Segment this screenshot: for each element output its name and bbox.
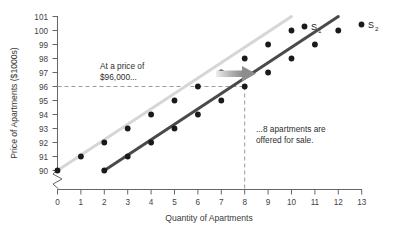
data-point	[148, 112, 154, 118]
series-s2-label-marker	[359, 22, 365, 28]
data-point	[172, 126, 178, 132]
data-point	[312, 42, 318, 48]
x-tick-label: 2	[102, 198, 107, 207]
y-tick-label: 90	[39, 167, 49, 176]
data-point	[148, 140, 154, 146]
data-point	[242, 56, 248, 62]
data-point	[101, 168, 107, 174]
x-axis-title: Quantity of Apartments	[165, 213, 252, 223]
x-tick-label: 10	[287, 198, 297, 207]
data-point	[218, 98, 224, 104]
data-point	[78, 154, 84, 160]
price-callout-line-2: $96,000...	[100, 72, 137, 82]
x-tick-label: 7	[219, 198, 224, 207]
chart-background	[0, 0, 406, 229]
data-point	[265, 42, 271, 48]
data-point	[289, 56, 295, 62]
x-tick-label: 11	[311, 198, 320, 207]
x-tick-label: 0	[55, 198, 60, 207]
x-tick-label: 6	[196, 198, 201, 207]
y-tick-label: 95	[39, 97, 49, 106]
chart-canvas: 101 100 99 98 97 96 95 94 93 92 91 90	[0, 0, 406, 229]
data-point	[335, 28, 341, 34]
quantity-callout-line-1: ...8 apartments are	[256, 124, 326, 134]
series-s2-subscript: 2	[375, 25, 379, 32]
data-point	[125, 154, 131, 160]
y-axis-title: Price of Apartments ($1000s)	[9, 47, 19, 158]
data-point	[101, 140, 107, 146]
y-tick-label: 100	[34, 27, 48, 36]
x-tick-label: 4	[149, 198, 154, 207]
y-tick-label: 91	[39, 153, 49, 162]
y-tick-label: 101	[34, 13, 48, 22]
x-tick-label: 3	[125, 198, 130, 207]
data-point	[195, 84, 201, 90]
series-s2-label: S	[368, 20, 374, 30]
y-tick-label: 94	[39, 111, 49, 120]
x-tick-label: 13	[357, 198, 367, 207]
x-tick-label: 1	[79, 198, 84, 207]
y-tick-label: 99	[39, 41, 49, 50]
data-point	[172, 98, 178, 104]
supply-shift-chart: 101 100 99 98 97 96 95 94 93 92 91 90	[0, 0, 406, 229]
price-callout-line-1: At a price of	[100, 61, 145, 71]
quantity-callout-line-2: offered for sale.	[256, 135, 314, 145]
x-tick-label: 5	[172, 198, 177, 207]
y-tick-label: 98	[39, 55, 49, 64]
y-tick-label: 96	[39, 83, 49, 92]
data-point	[289, 28, 295, 34]
series-s1-label-marker	[302, 24, 308, 30]
data-point	[55, 168, 61, 174]
y-tick-label: 97	[39, 69, 49, 78]
x-tick-label: 8	[242, 198, 247, 207]
data-point	[265, 70, 271, 76]
x-tick-label: 9	[266, 198, 271, 207]
data-point	[242, 84, 248, 90]
data-point	[125, 126, 131, 132]
data-point	[195, 112, 201, 118]
x-tick-label: 12	[334, 198, 344, 207]
y-tick-label: 93	[39, 125, 49, 134]
y-tick-label: 92	[39, 139, 49, 148]
